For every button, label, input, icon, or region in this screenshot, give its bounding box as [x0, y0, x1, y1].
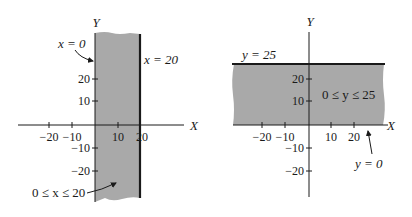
- left-x0-pointer-arrow: [75, 50, 93, 61]
- left-y-tick-label: 20: [78, 72, 90, 86]
- right-y0-pointer-arrow: [368, 131, 372, 154]
- right-y-tick-label: −20: [285, 164, 304, 178]
- left-y-tick-label: 10: [78, 94, 90, 108]
- right-boundary-y0-label: y = 0: [353, 156, 383, 171]
- right-x-tick-label: 20: [348, 130, 360, 144]
- left-y-tick-label: −10: [71, 141, 90, 155]
- right-y-axis-label: Y: [306, 14, 315, 29]
- left-x-axis-label: X: [189, 118, 199, 133]
- right-y-tick-label: 20: [292, 72, 304, 86]
- left-y-axis-label: Y: [92, 15, 101, 30]
- left-boundary-x0-label: x = 0: [57, 36, 86, 51]
- left-x-tick-label: 10: [112, 130, 124, 144]
- left-x-tick-label: 20: [136, 130, 148, 144]
- right-y-tick-label: 10: [292, 94, 304, 108]
- right-y-tick-label: −10: [285, 141, 304, 155]
- left-region-label: 0 ≤ x ≤ 20: [32, 185, 85, 200]
- left-y-tick-label: −20: [71, 164, 90, 178]
- right-panel: −20 −10 10 20 20 10 −10 −20 Y X y = 25 y…: [232, 14, 396, 197]
- left-shaded-band: [95, 32, 140, 202]
- right-x-tick-label: 10: [325, 130, 337, 144]
- two-region-diagram: −20 −10 10 20 20 10 −10 −20 Y X x = 0 x …: [0, 0, 412, 217]
- right-x-axis-label: X: [386, 118, 396, 133]
- left-x-tick-label: −20: [40, 130, 59, 144]
- left-panel: −20 −10 10 20 20 10 −10 −20 Y X x = 0 x …: [18, 15, 199, 202]
- left-boundary-x20-label: x = 20: [143, 52, 179, 67]
- right-boundary-y25-label: y = 25: [240, 47, 277, 62]
- right-region-label: 0 ≤ y ≤ 25: [322, 87, 375, 102]
- right-x-tick-label: −20: [253, 130, 272, 144]
